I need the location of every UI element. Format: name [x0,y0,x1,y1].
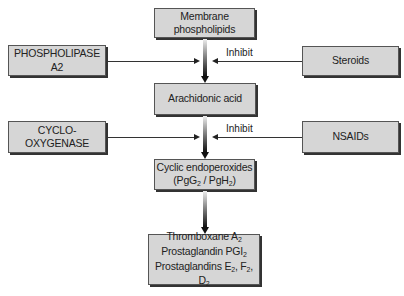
arrow-phospholipase-to-pathway [107,61,195,62]
arrowhead-right-icon [194,134,200,140]
arrow-cyclooxygenase-to-pathway [107,137,195,138]
arrowhead-down-icon [201,152,209,159]
membrane-phospholipids-box: Membrane phospholipids [154,8,255,38]
steroids-box: Steroids [302,46,399,76]
cyclic-line2: (PgG2 / PgH2) [173,174,235,189]
cyclooxygenase-label: CYCLO-OXYGENASE [9,124,105,150]
nsaids-label: NSAIDs [332,130,368,143]
arrow-arachidonic-to-cyclic [203,116,207,152]
cyclo-oxygenase-box: CYCLO-OXYGENASE [8,121,106,153]
membrane-line1: Membrane [180,10,229,23]
phospholipase-label: PHOSPHOLIPASE A2 [9,47,105,73]
products-line3: Prostaglandins E2, F2, D2 [149,260,259,290]
cyclic-endoperoxides-box: Cyclic endoperoxides (PgG2 / PgH2) [154,159,255,190]
inhibit-label-steroids: Inhibit [226,47,253,58]
membrane-line2: phospholipids [174,23,236,36]
arachidonic-label: Arachidonic acid [168,92,242,105]
arrow-membrane-to-arachidonic [203,39,207,76]
products-line2: Prostaglandin PGI2 [161,245,247,260]
arrowhead-down-icon [201,76,209,83]
prostanoid-products-box: Thromboxane A2 Prostaglandin PGI2 Prosta… [148,234,260,285]
steroids-label: Steroids [332,54,369,67]
arrowhead-left-icon [212,58,218,64]
cyclic-line1: Cyclic endoperoxides [157,161,253,174]
inhibit-label-nsaids: Inhibit [226,123,253,134]
arrowhead-right-icon [194,58,200,64]
arrow-nsaids-inhibit [218,137,302,138]
arachidonic-acid-box: Arachidonic acid [154,83,256,115]
arrow-steroids-inhibit [218,61,302,62]
phospholipase-a2-box: PHOSPHOLIPASE A2 [8,45,106,76]
nsaids-box: NSAIDs [302,121,399,153]
arrow-cyclic-to-products [203,191,207,227]
arrowhead-down-icon [201,227,209,234]
arrowhead-left-icon [212,134,218,140]
